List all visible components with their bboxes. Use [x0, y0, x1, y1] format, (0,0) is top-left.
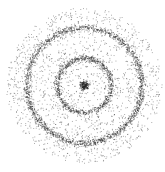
data-points: [7, 8, 163, 163]
center-cluster: [79, 79, 89, 91]
scatter-plot: [0, 0, 165, 172]
